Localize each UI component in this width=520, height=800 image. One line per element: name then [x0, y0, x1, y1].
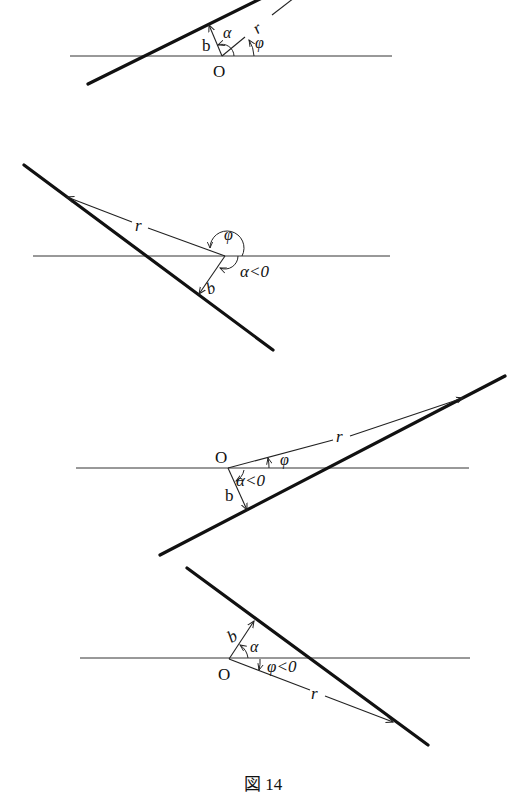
- figure-caption: 図 14: [244, 775, 283, 794]
- r-label: r: [135, 216, 142, 235]
- r-vector-part2: [350, 398, 463, 436]
- b-vector: [209, 25, 222, 56]
- origin-label: O: [218, 665, 230, 684]
- r-label: r: [311, 684, 318, 703]
- origin-label: O: [215, 448, 227, 467]
- alpha-label: α: [223, 24, 232, 41]
- r-label: r: [336, 427, 343, 446]
- phi-label: φ<0: [267, 657, 297, 676]
- alpha-arc: [218, 44, 234, 56]
- phi-label: φ: [224, 226, 233, 244]
- panel-3: r b φ α<0 O: [76, 376, 505, 555]
- b-label: b: [203, 278, 217, 299]
- r-vector-part2: [325, 696, 393, 722]
- alpha-arc: [240, 645, 248, 658]
- alpha-arc: [220, 256, 238, 269]
- b-label: b: [202, 36, 211, 55]
- alpha-label: α<0: [236, 471, 265, 490]
- r-vector-part1: [148, 228, 225, 256]
- phi-label: φ: [280, 451, 289, 469]
- phi-label: φ: [255, 34, 264, 52]
- alpha-label: α: [250, 638, 259, 655]
- alpha-label: α<0: [240, 262, 269, 281]
- origin-label: O: [213, 62, 225, 81]
- panel-4: r b α φ<0 O: [80, 568, 470, 745]
- panel-2: r b φ α<0: [24, 165, 390, 350]
- figure-14: r b α φ O r b φ α<0 r: [0, 0, 520, 800]
- b-label: b: [225, 486, 234, 505]
- line-l: [160, 376, 505, 555]
- line-l: [88, 0, 262, 84]
- phi-arc: [259, 659, 260, 670]
- phi-arc: [268, 458, 269, 468]
- r-vector-part2: [272, 0, 294, 15]
- line-l: [187, 568, 428, 745]
- r-vector-part2: [67, 197, 132, 222]
- line-l: [24, 165, 273, 350]
- panel-1: r b α φ O: [70, 0, 392, 84]
- phi-arc: [249, 40, 254, 56]
- b-label: b: [224, 626, 241, 647]
